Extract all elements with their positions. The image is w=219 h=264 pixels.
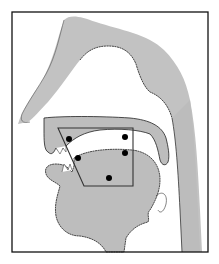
vowel-point-front-high	[66, 136, 72, 142]
vowel-point-front-mid	[75, 155, 81, 161]
vocal-tract-diagram	[0, 0, 219, 264]
vowel-point-back-mid	[122, 150, 128, 156]
vowel-point-low	[106, 175, 112, 181]
vowel-point-back-high	[122, 134, 128, 140]
diagram-svg	[0, 0, 219, 264]
